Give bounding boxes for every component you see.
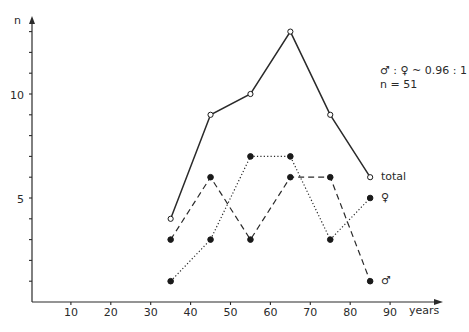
- legend-total: total: [381, 170, 406, 183]
- data-point: [248, 154, 254, 160]
- x-tick-label: 90: [383, 306, 397, 319]
- x-tick-label: 30: [144, 306, 158, 319]
- data-point: [208, 112, 213, 117]
- legend-female-icon: ♀: [381, 191, 389, 204]
- data-point: [248, 91, 253, 96]
- line-chart: 102030405060708090 n 10 5 years ♂ : ♀ ~ …: [0, 0, 469, 332]
- data-point: [168, 278, 174, 284]
- y-tick-label-10: 10: [10, 89, 24, 102]
- x-tick-label: 20: [104, 306, 118, 319]
- x-ticks: 102030405060708090: [64, 302, 397, 319]
- data-point: [367, 195, 373, 201]
- data-point: [208, 174, 214, 180]
- sample-size-annotation: n = 51: [380, 78, 417, 91]
- y-axis-label: n: [14, 14, 21, 27]
- data-point: [288, 154, 294, 160]
- data-point: [168, 237, 174, 243]
- x-tick-label: 40: [184, 306, 198, 319]
- data-point: [327, 237, 333, 243]
- y-axis-arrow: [29, 16, 35, 24]
- data-point: [328, 112, 333, 117]
- series-line-solid: [171, 32, 371, 219]
- x-tick-label: 70: [303, 306, 317, 319]
- x-axis-label: years: [409, 304, 440, 317]
- data-point: [288, 174, 294, 180]
- sex-ratio-annotation: ♂ : ♀ ~ 0.96 : 1: [380, 64, 467, 77]
- data-point: [288, 29, 293, 34]
- legend-male-icon: ♂: [381, 274, 391, 287]
- data-point: [327, 174, 333, 180]
- series-line-dotted: [171, 156, 371, 281]
- x-tick-label: 10: [64, 306, 78, 319]
- x-tick-label: 60: [263, 306, 277, 319]
- data-point: [248, 237, 254, 243]
- x-tick-label: 50: [224, 306, 238, 319]
- data-point: [168, 216, 173, 221]
- x-tick-label: 80: [343, 306, 357, 319]
- data-point: [367, 278, 373, 284]
- data-point: [208, 237, 214, 243]
- axes: [29, 16, 443, 305]
- series-lines: [168, 29, 373, 284]
- data-point: [368, 175, 373, 180]
- y-tick-label-5: 5: [17, 193, 24, 206]
